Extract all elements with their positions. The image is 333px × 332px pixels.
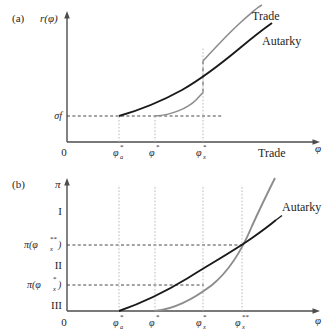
panel-b-xtick-phi-base: φ (149, 317, 155, 328)
panel-a-xtick-phi-x-base: φ (196, 147, 202, 158)
panel-b-xtick-phi-a: φ a * (113, 313, 124, 330)
panel-a-xtick-phi-a-sup: * (120, 143, 124, 151)
panel-a-trade-axis-label: Trade (258, 146, 286, 160)
panel-b-y-axis-label: π (55, 178, 61, 190)
panel-b-region-label-ii: II (55, 259, 63, 271)
panel-b-ylevel-pi-x-sub: x (52, 285, 56, 292)
panel-a-xtick-phi-a-base: φ (113, 147, 119, 158)
panel-b-ylevel-pi-xx-sub: x (49, 245, 53, 252)
panel-a-xtick-phi-a: φ a * (113, 143, 124, 160)
panel-b: (b) π φ 0 Autarky π(φ x ** ) π(φ (12, 178, 321, 330)
panel-a-trade-curve-lower (155, 93, 203, 117)
panel-b-xtick-phi-x: φ x * (196, 313, 207, 330)
panel-b-ylevel-pi-xx-sup: ** (50, 235, 58, 243)
economics-figure: (a) r(φ) φ 0 σf Trade Autarky (0, 0, 333, 332)
panel-b-xtick-phi-x-sub: x (202, 323, 206, 330)
panel-b-ylevel-pi-x-base: π(φ (27, 279, 41, 291)
panel-b-y-axis-arrow (64, 178, 70, 186)
panel-b-x-axis-label: φ (315, 314, 321, 326)
panel-a: (a) r(φ) φ 0 σf Trade Autarky (12, 5, 321, 160)
panel-a-xtick-phi-a-sub: a (120, 153, 123, 160)
panel-a-autarky-curve (119, 23, 272, 116)
panel-a-y-axis-arrow (64, 11, 70, 19)
panel-a-x-axis-label: φ (315, 142, 321, 154)
panel-b-xtick-phi-a-base: φ (113, 317, 119, 328)
panel-b-region-label-iii: III (51, 299, 62, 311)
panel-b-trade-curve (155, 178, 275, 311)
panel-b-ylevel-pi-xx-base: π(φ (24, 239, 38, 251)
panel-b-x-axis-arrow (313, 308, 321, 314)
panel-b-ylevel-pi-x: π(φ x * ) (27, 275, 62, 292)
panel-b-autarky-curve (119, 220, 276, 311)
panel-a-trade-label: Trade (252, 9, 280, 23)
panel-b-xtick-phi-sup: * (156, 313, 160, 321)
panel-a-trade-curve-upper (203, 9, 256, 61)
panel-b-autarky-label: Autarky (282, 200, 321, 214)
panel-a-y-axis-label: r(φ) (40, 12, 58, 25)
panel-a-id: (a) (12, 12, 25, 25)
panel-a-xtick-phi-x-sup: * (203, 143, 207, 151)
panel-a-xtick-phi-sup: * (156, 143, 160, 151)
panel-b-xtick-phi-a-sup: * (120, 313, 124, 321)
panel-a-xtick-phi-x: φ x * (196, 143, 207, 160)
panel-a-xtick-phi-base: φ (149, 147, 155, 158)
panel-b-xtick-phi-a-sub: a (120, 323, 123, 330)
panel-a-xtick-phi: φ * (149, 143, 160, 158)
panel-b-id: (b) (12, 178, 25, 191)
panel-b-xtick-phi-xx-sup: ** (242, 313, 250, 321)
panel-b-xtick-phi: φ * (149, 313, 160, 328)
panel-a-autarky-label: Autarky (262, 34, 301, 48)
panel-b-ylevel-pi-x-sup: * (53, 275, 57, 283)
panel-b-ylevel-pi-xx-close: ) (57, 239, 62, 251)
panel-a-xtick-phi-x-sub: x (202, 153, 206, 160)
panel-b-xtick-phi-xx-sub: x (241, 323, 245, 330)
panel-a-origin-label: 0 (61, 146, 67, 158)
panel-a-sigmaf-label: σf (54, 110, 63, 121)
panel-b-xtick-phi-x-sup: * (203, 313, 207, 321)
panel-b-region-label-i: I (58, 205, 62, 217)
panel-b-xtick-phi-xx: φ x ** (235, 313, 250, 330)
panel-b-ylevel-pi-xx: π(φ x ** ) (24, 235, 62, 252)
panel-b-ylevel-pi-x-close: ) (57, 279, 62, 291)
panel-b-origin-label: 0 (61, 316, 67, 328)
panel-b-autarky-leader (276, 216, 282, 221)
panel-b-xtick-phi-xx-base: φ (235, 317, 241, 328)
panel-b-xtick-phi-x-base: φ (196, 317, 202, 328)
